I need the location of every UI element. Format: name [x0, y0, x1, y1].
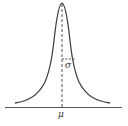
mean-label: μ [58, 109, 64, 119]
sigma-label: σ [65, 60, 72, 70]
distribution-diagram: σ μ [0, 0, 128, 126]
distribution-curve [15, 3, 110, 103]
